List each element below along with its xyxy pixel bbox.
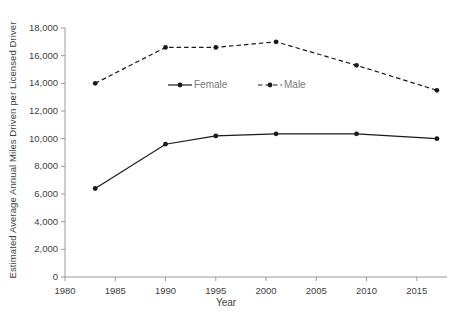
series-line-female bbox=[95, 134, 437, 189]
data-point-female bbox=[163, 142, 168, 147]
x-axis-title: Year bbox=[0, 297, 452, 308]
data-point-female bbox=[93, 186, 98, 191]
legend-label-male: Male bbox=[284, 79, 306, 91]
plot-area bbox=[0, 0, 452, 327]
data-point-male bbox=[93, 81, 98, 86]
data-point-male bbox=[354, 63, 359, 68]
line-chart: Estimated Average Annual Miles Driven pe… bbox=[0, 0, 452, 327]
series-line-male bbox=[95, 42, 437, 91]
legend-label-female: Female bbox=[194, 79, 227, 91]
data-point-male bbox=[435, 88, 440, 93]
legend-marker-female bbox=[178, 83, 183, 88]
data-point-female bbox=[354, 131, 359, 136]
data-point-female bbox=[213, 134, 218, 139]
data-point-male bbox=[213, 45, 218, 50]
data-point-female bbox=[274, 131, 279, 136]
data-point-female bbox=[435, 136, 440, 141]
data-point-male bbox=[163, 45, 168, 50]
legend-marker-male bbox=[268, 83, 273, 88]
data-point-male bbox=[274, 39, 279, 44]
